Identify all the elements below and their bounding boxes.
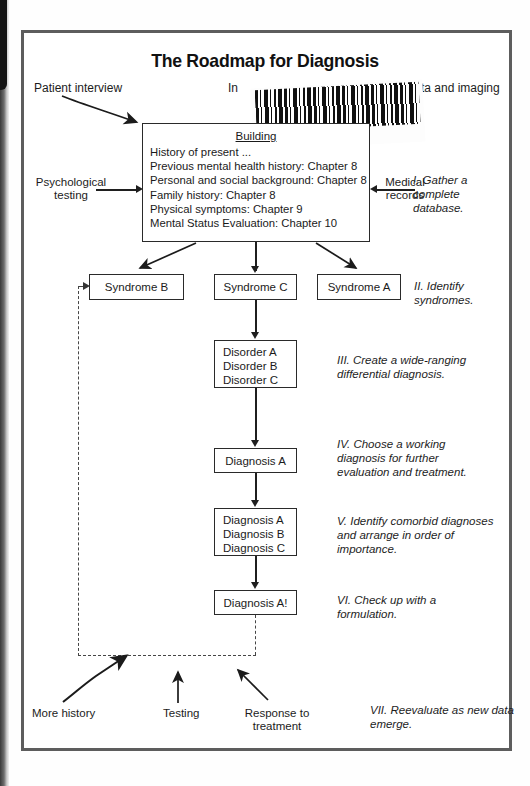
scan-edge-blob xyxy=(0,0,7,90)
disorder-item: Disorder C xyxy=(223,373,278,387)
step-annotation-1: I. Gather a complete database. xyxy=(413,173,513,215)
input-label-lab-data: ta and imaging xyxy=(421,82,500,95)
step-4-text: Choose a working diagnosis for further e… xyxy=(337,438,467,478)
step-annotation-5: V. Identify comorbid diagnoses and arran… xyxy=(337,514,497,556)
database-item: Physical symptoms: Chapter 9 xyxy=(150,202,362,216)
arrowhead-comorbid-to-final xyxy=(251,582,259,589)
step-annotation-2: II. Identify syndromes. xyxy=(414,279,510,307)
response-line1: Response to xyxy=(245,707,310,719)
step-1-text: Gather a complete database. xyxy=(413,174,467,214)
database-item: Previous mental health history: Chapter … xyxy=(150,159,362,173)
database-item: Personal and social background: Chapter … xyxy=(150,173,362,187)
branch-arrowhead-center xyxy=(251,266,259,273)
scanned-page: The Roadmap for Diagnosis Patient interv… xyxy=(0,0,530,786)
step-7-text: Reevaluate as new data emerge. xyxy=(370,704,514,730)
comorbid-item: Diagnosis B xyxy=(223,527,285,541)
syndrome-box-a: Syndrome A xyxy=(317,274,401,300)
disorder-item: Disorder A xyxy=(223,345,278,359)
input-label-informants: In xyxy=(228,82,238,95)
step-5-text: Identify comorbid diagnoses and arrange … xyxy=(337,515,493,555)
psych-testing-arrow-line xyxy=(96,189,137,191)
syndrome-box-b: Syndrome B xyxy=(89,274,184,300)
working-diagnosis-label: Diagnosis A xyxy=(225,455,286,467)
arrowhead-syndrome-to-disorder xyxy=(251,332,259,339)
feedback-loop-bottom-segment xyxy=(78,655,256,656)
step-annotation-7: VII. Reevaluate as new data emerge. xyxy=(370,703,515,731)
feedback-label-testing: Testing xyxy=(163,707,199,720)
feedback-loop-left-segment xyxy=(78,286,79,656)
response-line2: treatment xyxy=(253,720,302,732)
database-box-items: History of present ... Previous mental h… xyxy=(143,145,369,230)
step-annotation-4: IV. Choose a working diagnosis for furth… xyxy=(337,437,492,479)
line-disorder-to-diagnosis xyxy=(255,388,257,441)
feedback-loop-down-segment xyxy=(255,615,256,655)
final-diagnosis-box: Diagnosis A! xyxy=(214,590,297,615)
step-3-number: III. xyxy=(337,354,350,366)
disorder-box: Disorder A Disorder B Disorder C xyxy=(214,340,297,388)
comorbid-item: Diagnosis A xyxy=(223,513,285,527)
arrowhead-diagnosis-to-comorbid xyxy=(251,500,259,507)
psych-testing-line2: testing xyxy=(54,189,88,201)
syndrome-a-label: Syndrome A xyxy=(328,281,391,293)
comorbid-diagnoses-box: Diagnosis A Diagnosis B Diagnosis C xyxy=(214,508,297,556)
arrowhead-disorder-to-diagnosis xyxy=(251,440,259,447)
line-comorbid-to-final xyxy=(255,556,257,583)
step-4-number: IV. xyxy=(337,438,350,450)
feedback-label-response-to-treatment: Response to treatment xyxy=(237,707,317,733)
step-3-text: Create a wide-ranging differential diagn… xyxy=(337,354,466,380)
input-label-patient-interview: Patient interview xyxy=(34,82,122,95)
syndrome-b-label: Syndrome B xyxy=(105,281,168,293)
step-6-text: Check up with a formulation. xyxy=(337,594,436,620)
database-item: Family history: Chapter 8 xyxy=(150,188,362,202)
step-7-number: VII. xyxy=(370,704,387,716)
scan-edge-artifact xyxy=(0,0,9,786)
medical-records-arrowhead xyxy=(370,185,377,193)
disorder-item: Disorder B xyxy=(223,359,278,373)
working-diagnosis-box: Diagnosis A xyxy=(214,448,297,473)
line-diagnosis-to-comorbid xyxy=(255,473,257,501)
final-diagnosis-label: Diagnosis A! xyxy=(224,597,288,609)
step-annotation-6: VI. Check up with a formulation. xyxy=(337,593,487,621)
feedback-label-more-history: More history xyxy=(32,707,95,720)
comorbid-item: Diagnosis C xyxy=(223,541,285,555)
comorbid-box-items: Diagnosis A Diagnosis B Diagnosis C xyxy=(215,509,293,559)
disorder-box-items: Disorder A Disorder B Disorder C xyxy=(215,341,286,391)
syndrome-c-label: Syndrome C xyxy=(224,281,288,293)
medical-records-arrow-line xyxy=(377,189,415,191)
step-2-number: II. xyxy=(414,280,424,292)
database-item: History of present ... xyxy=(150,145,362,159)
page-title: The Roadmap for Diagnosis xyxy=(19,50,512,72)
step-5-number: V. xyxy=(337,515,347,527)
step-6-number: VI. xyxy=(337,594,351,606)
step-1-number: I. xyxy=(413,174,419,186)
database-item: Mental Status Evaluation: Chapter 10 xyxy=(150,216,362,230)
syndrome-box-c: Syndrome C xyxy=(214,274,297,300)
database-box-header: Building xyxy=(143,130,369,142)
building-database-box: Building History of present ... Previous… xyxy=(142,123,370,242)
step-annotation-3: III. Create a wide-ranging differential … xyxy=(337,353,502,381)
feedback-loop-arrowhead xyxy=(83,282,90,290)
psych-testing-line1: Psychological xyxy=(36,176,106,188)
line-syndrome-to-disorder xyxy=(255,300,257,333)
